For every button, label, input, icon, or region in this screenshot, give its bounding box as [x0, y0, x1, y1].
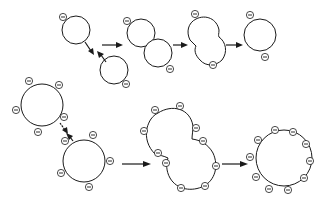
negative-charge-icon: [209, 61, 216, 68]
approach-arrow-down: [60, 123, 68, 134]
negative-charge-icon: [261, 53, 268, 60]
vesicle-fusion-diagram: [0, 0, 325, 204]
bottom-fused-vesicle: [246, 126, 313, 193]
negative-charge-icon: [246, 153, 253, 160]
negative-charge-icon: [60, 113, 67, 120]
negative-charge-icon: [85, 183, 92, 190]
negative-charge-icon: [306, 157, 313, 164]
arrow-right-icon: [102, 42, 123, 48]
negative-charge-icon: [162, 159, 169, 166]
arrow-right-icon: [173, 42, 188, 48]
arrow-right-icon: [222, 161, 248, 167]
top-contact-vesicles: [123, 17, 173, 72]
vesicle-upper: [62, 16, 90, 44]
top-fusing-vesicle: [188, 10, 226, 68]
negative-charge-icon: [177, 184, 184, 191]
negative-charge-icon: [289, 128, 296, 135]
bottom-fusing-vesicle: [140, 102, 219, 191]
negative-charge-icon: [57, 169, 64, 176]
negative-charge-icon: [176, 102, 183, 109]
negative-charge-icon: [89, 131, 96, 138]
top-fused-vesicle: [244, 11, 276, 60]
negative-charge-icon: [106, 157, 113, 164]
arrow-right-icon: [226, 42, 243, 48]
negative-charge-icon: [61, 137, 68, 144]
negative-charge-icon: [284, 186, 291, 193]
negative-charge-icon: [254, 136, 261, 143]
negative-charge-icon: [151, 106, 158, 113]
negative-charge-icon: [25, 77, 32, 84]
bottom-separate-vesicles: [12, 77, 113, 190]
negative-charge-icon: [34, 128, 41, 135]
top-row: [59, 10, 276, 87]
diagram-canvas: [0, 0, 325, 204]
negative-charge-icon: [55, 81, 62, 88]
negative-charge-icon: [302, 140, 309, 147]
negative-charge-icon: [212, 162, 219, 169]
negative-charge-icon: [252, 173, 259, 180]
vesicle-lower: [63, 140, 105, 182]
vesicle-upper: [21, 84, 63, 126]
top-separate-vesicles: [59, 13, 129, 87]
negative-charge-icon: [246, 11, 253, 18]
negative-charge-icon: [265, 185, 272, 192]
arrow-right-icon: [122, 161, 151, 167]
negative-charge-icon: [201, 182, 208, 189]
negative-charge-icon: [300, 174, 307, 181]
negative-charge-icon: [191, 10, 198, 17]
negative-charge-icon: [59, 13, 66, 20]
negative-charge-icon: [12, 106, 19, 113]
approach-arrow-down: [85, 42, 94, 55]
negative-charge-icon: [140, 127, 147, 134]
negative-charge-icon: [271, 126, 278, 133]
approach-arrow-up: [97, 51, 106, 62]
negative-charge-icon: [122, 80, 129, 87]
negative-charge-icon: [154, 149, 161, 156]
bottom-row: [12, 77, 313, 193]
negative-charge-icon: [192, 124, 199, 131]
negative-charge-icon: [123, 17, 130, 24]
negative-charge-icon: [166, 65, 173, 72]
negative-charge-icon: [199, 137, 206, 144]
